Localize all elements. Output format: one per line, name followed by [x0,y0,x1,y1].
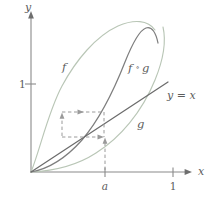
fog-label-compose-operator: ∘ [136,63,140,72]
x-tick-label-a: a [102,180,108,192]
curve-label-f-compose-g: f ∘ g [127,61,149,75]
curve-label-g: g [137,117,144,131]
dash-arrow-right-upper [78,109,85,114]
line-y-equals-x [31,82,168,172]
curve-g [31,27,164,172]
fog-label-f: f [127,61,134,75]
curve-f [31,21,155,172]
dash-arrow-up-left [60,113,65,119]
dash-arrow-right-lower [98,134,105,139]
y-tick-label-1: 1 [19,78,26,90]
x-axis-arrowhead [185,169,192,175]
figure-container: y x 1 a 1 f g f ∘ g y = x [0,0,207,213]
composition-figure-svg: y x 1 a 1 f g f ∘ g y = x [0,0,207,213]
curve-label-f: f [61,60,68,74]
dash-arrow-up-from-a [103,138,108,144]
y-axis-label: y [24,1,32,14]
x-axis-label: x [198,165,205,178]
x-tick-label-1: 1 [170,180,177,192]
construction-group [60,109,108,170]
fog-label-g: g [142,61,149,75]
line-label-y-equals-x: y = x [166,89,196,102]
curve-f-compose-g [31,28,158,172]
